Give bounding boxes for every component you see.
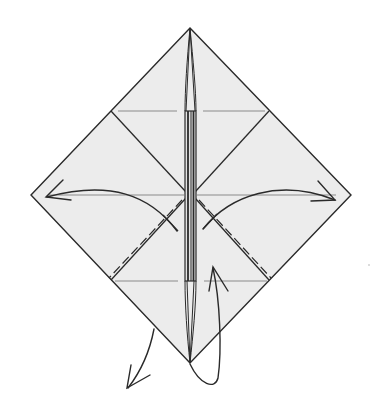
swing-down-left-arrow bbox=[128, 329, 154, 388]
stray-mark bbox=[368, 264, 370, 266]
origami-diagram bbox=[0, 0, 376, 407]
